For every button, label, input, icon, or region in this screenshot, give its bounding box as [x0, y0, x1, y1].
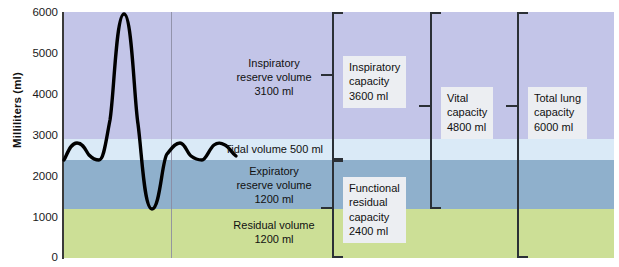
bracket-arm-bottom: [430, 207, 441, 209]
bracket-spine: [332, 12, 334, 160]
label-expiratory-reserve-volume: Expiratory reserve volume 1200 ml: [184, 165, 364, 206]
tidal-line-1: Tidal volume 500 ml: [225, 143, 323, 155]
residual-line-1: Residual volume: [233, 219, 314, 231]
y-tick-6000: 6000: [12, 7, 58, 19]
ic-line-3: 3600 ml: [349, 90, 388, 102]
ic-line-1: Inspiratory: [349, 61, 400, 73]
label-inspiratory-reserve-volume: Inspiratory reserve volume 3100 ml: [184, 57, 364, 98]
irv-line-2: reserve volume: [236, 71, 311, 83]
bracket-arm-top: [430, 12, 441, 14]
label-vital-capacity: Vital capacity 4800 ml: [441, 87, 493, 139]
vc-line-3: 4800 ml: [447, 121, 486, 133]
ic-line-2: capacity: [349, 75, 389, 87]
bracket-arm-bottom: [332, 256, 343, 258]
y-tick-4000: 4000: [12, 89, 58, 101]
tlc-line-3: 6000 ml: [534, 121, 573, 133]
label-functional-residual-capacity: Functional residual capacity 2400 ml: [343, 177, 406, 243]
residual-line-2: 1200 ml: [254, 233, 293, 245]
lung-volumes-chart: Milliliters (ml) 6000 5000 4000 3000 200…: [0, 0, 619, 267]
bracket-spine: [430, 12, 432, 209]
plot-area: Inspiratory reserve volume 3100 ml Tidal…: [64, 12, 614, 258]
vc-line-1: Vital: [447, 92, 468, 104]
erv-line-2: reserve volume: [236, 179, 311, 191]
y-tick-2000: 2000: [12, 171, 58, 183]
tlc-line-1: Total lung: [534, 92, 581, 104]
label-inspiratory-capacity: Inspiratory capacity 3600 ml: [343, 56, 406, 108]
bracket-arm-top: [332, 12, 343, 14]
bracket-spine: [517, 12, 519, 258]
label-tidal-volume: Tidal volume 500 ml: [184, 143, 364, 157]
erv-line-1: Expiratory: [249, 165, 299, 177]
label-total-lung-capacity: Total lung capacity 6000 ml: [528, 87, 587, 139]
y-tick-0: 0: [12, 252, 58, 264]
bracket-spine: [332, 160, 334, 258]
bracket-arm-top: [517, 12, 528, 14]
frc-line-3: capacity: [349, 211, 389, 223]
bracket-arm-middle: [321, 74, 332, 76]
frc-line-1: Functional: [349, 182, 400, 194]
y-axis-tick-labels: 6000 5000 4000 3000 2000 1000 0: [12, 0, 58, 267]
y-tick-5000: 5000: [12, 48, 58, 60]
frc-line-4: 2400 ml: [349, 225, 388, 237]
y-tick-3000: 3000: [12, 130, 58, 142]
y-tick-1000: 1000: [12, 212, 58, 224]
label-residual-volume: Residual volume 1200 ml: [184, 219, 364, 247]
irv-line-1: Inspiratory: [248, 57, 299, 69]
bracket-arm-middle: [506, 105, 517, 107]
irv-line-3: 3100 ml: [254, 85, 293, 97]
erv-line-3: 1200 ml: [254, 193, 293, 205]
vc-line-2: capacity: [447, 106, 487, 118]
frc-line-2: residual: [349, 196, 388, 208]
bracket-arm-middle: [321, 207, 332, 209]
bracket-arm-bottom: [517, 256, 528, 258]
tlc-line-2: capacity: [534, 106, 574, 118]
bracket-arm-top: [332, 160, 343, 162]
bracket-arm-middle: [419, 105, 430, 107]
